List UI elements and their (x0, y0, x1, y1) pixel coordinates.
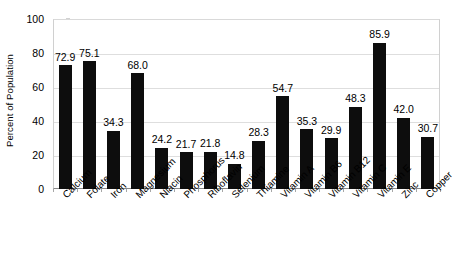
bar-group[interactable]: 21.7 (180, 19, 193, 189)
bar-value-label: 14.8 (224, 150, 244, 161)
bar-chart: Percent of Population 100806040200 72.97… (0, 0, 456, 255)
bar-value-label: 54.7 (273, 83, 293, 94)
y-axis-tick-label: 20 (32, 150, 44, 161)
bar-value-label: 28.3 (248, 127, 268, 138)
bar-value-label: 75.1 (79, 48, 99, 59)
y-axis-tick-label: 80 (32, 48, 44, 59)
bar[interactable] (131, 73, 144, 189)
bar-value-label: 42.0 (394, 104, 414, 115)
y-axis-tick-label: 0 (38, 184, 44, 195)
bar-value-label: 29.9 (321, 125, 341, 136)
y-axis-tick-labels: 100806040200 (18, 0, 48, 255)
x-axis-tick-mark (53, 189, 54, 192)
bar-group[interactable]: 30.7 (421, 19, 434, 189)
y-axis-title: Percent of Population (0, 0, 18, 200)
bar-value-label: 30.7 (418, 123, 438, 134)
y-axis-tick-label: 60 (32, 82, 44, 93)
bar-value-label: 72.9 (55, 52, 75, 63)
bar-value-label: 24.2 (152, 134, 172, 145)
bar-value-label: 85.9 (369, 29, 389, 40)
bar-value-label: 21.8 (200, 138, 220, 149)
bar-value-label: 68.0 (127, 60, 147, 71)
y-axis-tick-label: 100 (26, 14, 44, 25)
y-axis-tick-label: 40 (32, 116, 44, 127)
bar-value-label: 34.3 (103, 117, 123, 128)
bar-group[interactable]: 68.0 (131, 19, 144, 189)
bar-value-label: 35.3 (297, 116, 317, 127)
x-axis-category-labels: CalciumFolateIronMagnesiumNiacinPhosphor… (53, 193, 456, 255)
bar[interactable] (59, 65, 72, 189)
y-axis-title-text: Percent of Population (4, 54, 15, 147)
bar-group[interactable]: 72.9 (59, 19, 72, 189)
bar-group[interactable]: 34.3 (107, 19, 120, 189)
bar-value-label: 48.3 (345, 93, 365, 104)
bar-group[interactable]: 75.1 (83, 19, 96, 189)
bar-value-label: 21.7 (176, 139, 196, 150)
